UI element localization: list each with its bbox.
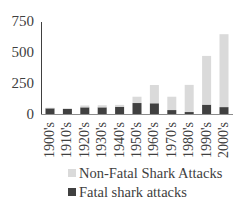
x-tick-label: 1950's	[130, 122, 144, 158]
bar-fatal	[63, 109, 72, 115]
bar-group	[133, 97, 142, 115]
legend-swatch-fatal	[68, 188, 76, 196]
bar-fatal	[220, 107, 229, 114]
x-tick-label: 1900's	[43, 122, 57, 158]
x-tick-label: 2000's	[217, 122, 231, 158]
bar-group	[202, 56, 211, 115]
bar-group	[98, 105, 107, 114]
bar-fatal	[46, 108, 55, 114]
x-tick-label: 1990's	[200, 122, 214, 158]
bar-fatal	[150, 103, 159, 114]
x-tick-label: 1960's	[147, 122, 161, 158]
bar-group	[115, 105, 124, 115]
legend-swatch-non-fatal	[68, 169, 76, 177]
legend-label-non-fatal: Non-Fatal Shark Attacks	[79, 165, 222, 181]
x-tick-label: 1920's	[78, 122, 92, 158]
bar-fatal	[133, 103, 142, 114]
x-tick-label: 1970's	[165, 122, 179, 158]
bar-non-fatal	[63, 108, 72, 109]
bar-non-fatal	[185, 85, 194, 112]
bar-group	[220, 34, 229, 114]
bar-non-fatal	[46, 108, 55, 109]
bar-non-fatal	[150, 85, 159, 103]
x-tick-label: 1930's	[95, 122, 109, 158]
x-tick-label: 1910's	[60, 122, 74, 158]
bar-group	[185, 85, 194, 115]
bar-non-fatal	[220, 34, 229, 107]
bar-group	[150, 85, 159, 114]
bar-non-fatal	[133, 97, 142, 103]
bar-fatal	[202, 105, 211, 115]
legend-item-fatal: Fatal shark attacks	[68, 184, 187, 200]
y-tick-label: 250	[0, 76, 34, 91]
plot-area	[0, 0, 248, 213]
x-tick-label: 1980's	[182, 122, 196, 158]
legend-label-fatal: Fatal shark attacks	[79, 184, 187, 200]
bar-fatal	[115, 107, 124, 115]
bar-fatal	[98, 107, 107, 114]
bar-group	[63, 108, 72, 114]
bar-group	[167, 97, 176, 115]
bar-non-fatal	[202, 56, 211, 105]
y-tick-label: 500	[0, 45, 34, 60]
bar-group	[80, 105, 89, 114]
bar-group	[46, 108, 55, 115]
bar-fatal	[167, 110, 176, 114]
bar-non-fatal	[80, 105, 89, 107]
x-tick-label: 1940's	[113, 122, 127, 158]
legend-item-non-fatal: Non-Fatal Shark Attacks	[68, 165, 222, 181]
bar-non-fatal	[98, 105, 107, 107]
bar-non-fatal	[115, 105, 124, 107]
stacked-bar-chart: 0250500750 1900's1910's1920's1930's1940'…	[0, 0, 248, 213]
bar-non-fatal	[167, 97, 176, 110]
y-tick-label: 0	[0, 107, 34, 122]
y-tick-label: 750	[0, 14, 34, 29]
bar-fatal	[80, 107, 89, 114]
